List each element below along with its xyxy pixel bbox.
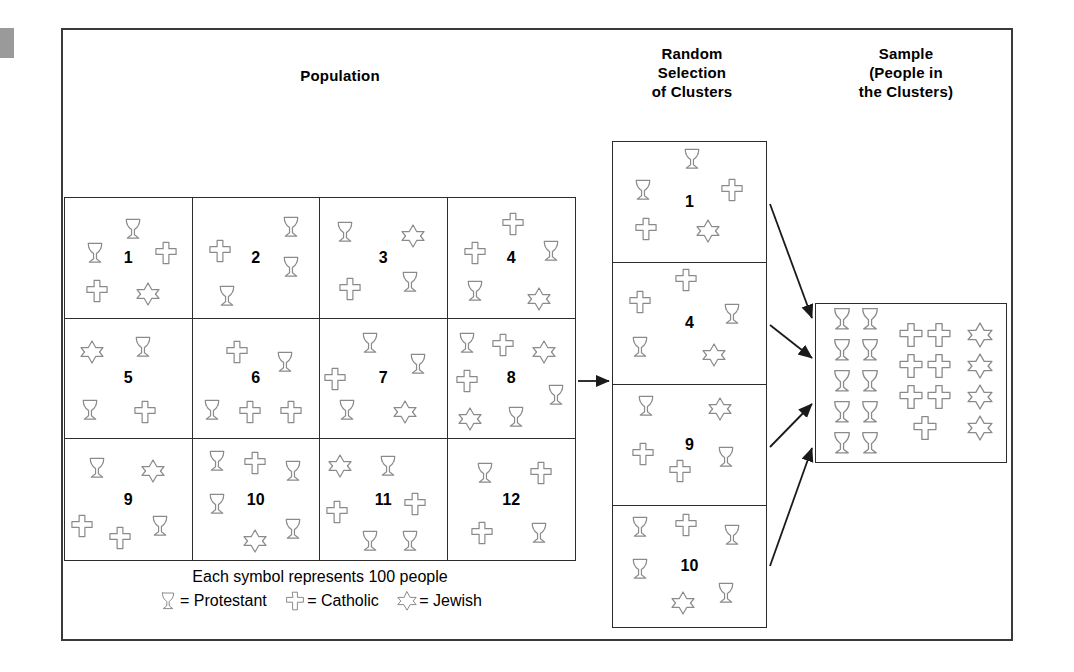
population-cell-number: 7 [379,369,388,387]
goblet-icon [78,398,102,422]
cross-icon [108,526,132,550]
goblet-icon [631,178,655,202]
star-of-david-icon [136,282,160,306]
cross-icon [674,268,698,292]
goblet-icon [358,529,382,553]
population-cell-number: 8 [507,369,516,387]
random-title-line1: Random [612,44,772,63]
goblet-icon [504,405,528,429]
sample-row [967,353,993,383]
cluster-box-9[interactable]: 9 [613,385,766,506]
sample-jewish-column [967,322,993,445]
goblet-icon [720,523,744,547]
population-cell-1[interactable]: 1 [65,198,193,319]
sample-row [829,306,883,336]
random-title-line2: Selection [612,63,772,82]
population-cell-number: 6 [251,369,260,387]
population-cell-3[interactable]: 3 [320,198,448,319]
scan-artifact [0,28,14,58]
goblet-icon [455,331,479,355]
legend: Each symbol represents 100 people = Prot… [64,566,576,613]
cluster-box-4[interactable]: 4 [613,263,766,384]
cluster-box-1[interactable]: 1 [613,142,766,263]
cross-icon [463,241,487,265]
population-cell-6[interactable]: 6 [193,319,321,440]
sample-title-line3: the Clusters) [806,82,1006,101]
cross-icon [501,212,525,236]
cross-icon [529,461,553,485]
goblet-icon [83,241,107,265]
goblet-icon [473,461,497,485]
sample-catholic-column [898,322,952,445]
goblet-icon [85,456,109,480]
selected-clusters-column: 14910 [612,141,767,628]
cross-icon [912,415,938,445]
cross-icon [491,333,515,357]
population-cell-number: 9 [124,491,133,509]
goblet-icon [628,515,652,539]
population-cell-5[interactable]: 5 [65,319,193,440]
goblet-icon [829,368,855,398]
page-title-random-selection: Random Selection of Clusters [612,44,772,101]
population-cell-11[interactable]: 11 [320,439,448,560]
goblet-icon [333,220,357,244]
population-cell-8[interactable]: 8 [448,319,576,440]
goblet-icon [376,454,400,478]
star-of-david-icon [967,415,993,445]
goblet-icon [634,394,658,418]
population-cell-4[interactable]: 4 [448,198,576,319]
sample-row [898,322,952,352]
cross-icon [455,369,479,393]
goblet-icon [200,398,224,422]
population-cell-number: 11 [375,491,392,509]
population-cell-12[interactable]: 12 [448,439,576,560]
cluster-number: 10 [681,557,699,575]
goblet-icon [857,430,883,460]
goblet-icon [148,514,172,538]
star-of-david-icon [527,287,551,311]
cluster-number: 4 [685,314,694,332]
goblet-icon [714,445,738,469]
goblet-icon [398,270,422,294]
star-of-david-icon [967,353,993,383]
cross-icon [70,514,94,538]
sample-row [912,415,938,445]
goblet-icon [628,557,652,581]
cross-icon [325,500,349,524]
goblet-icon [714,581,738,605]
sample-row [967,322,993,352]
cross-icon [720,178,744,202]
diagram-root: Population Random Selection of Clusters … [0,0,1074,672]
goblet-icon [215,284,239,308]
cluster-box-10[interactable]: 10 [613,506,766,627]
sample-row [967,415,993,445]
star-of-david-icon [243,529,267,553]
cross-icon [243,451,267,475]
goblet-icon [829,430,855,460]
population-cell-10[interactable]: 10 [193,439,321,560]
sample-row [829,399,883,429]
star-of-david-icon [708,397,732,421]
goblet-icon [628,335,652,359]
goblet-icon [857,337,883,367]
population-cell-number: 10 [247,491,265,509]
cross-icon [898,353,924,383]
goblet-icon [131,335,155,359]
goblet-icon [358,331,382,355]
goblet-icon [121,217,145,241]
star-of-david-icon [967,322,993,352]
cross-icon [285,591,305,611]
sample-protestant-column [829,306,883,460]
goblet-icon [857,399,883,429]
population-cell-7[interactable]: 7 [320,319,448,440]
goblet-icon [857,306,883,336]
population-cell-number: 4 [507,249,516,267]
legend-label-jewish: = Jewish [417,592,482,609]
star-of-david-icon [141,459,165,483]
goblet-icon [158,591,178,611]
cross-icon [926,322,952,352]
population-cell-2[interactable]: 2 [193,198,321,319]
cross-icon [634,217,658,241]
cross-icon [225,340,249,364]
population-cell-9[interactable]: 9 [65,439,193,560]
